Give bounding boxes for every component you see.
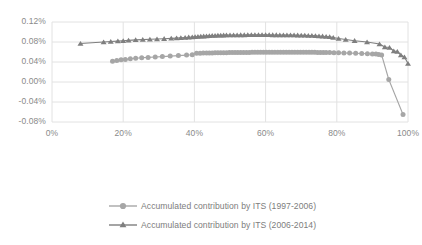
y-axis-tick-label: -0.04% — [18, 96, 46, 106]
circle-marker-icon — [108, 199, 138, 213]
data-point-marker — [110, 59, 115, 64]
data-point-marker — [168, 54, 173, 59]
y-axis-tick-label: -0.08% — [18, 116, 46, 126]
data-point-marker — [184, 53, 189, 58]
data-point-marker — [327, 50, 332, 55]
data-point-marker — [190, 52, 195, 57]
data-point-marker — [386, 77, 391, 82]
data-point-marker — [341, 50, 346, 55]
data-point-marker — [365, 51, 370, 56]
x-axis-tick-label: 40% — [174, 128, 214, 138]
data-point-marker — [336, 50, 341, 55]
y-axis-tick-label: 0.12% — [21, 16, 46, 26]
data-point-marker — [146, 55, 151, 60]
data-point-marker — [114, 58, 119, 63]
triangle-marker-icon — [108, 218, 138, 232]
data-point-marker — [128, 56, 133, 61]
x-axis-tick-label: 60% — [246, 128, 286, 138]
data-point-marker — [133, 56, 138, 61]
data-point-marker — [353, 51, 358, 56]
data-point-marker — [153, 55, 158, 60]
legend-label-series1: Accumulated contribution by ITS (1997-20… — [138, 201, 316, 211]
y-axis-tick-label: 0.08% — [21, 36, 46, 46]
x-axis-tick-label: 0% — [32, 128, 72, 138]
x-axis-tick-label: 80% — [317, 128, 357, 138]
data-point-marker — [347, 51, 352, 56]
legend-item-series2[interactable]: Accumulated contribution by ITS (2006-20… — [108, 215, 408, 234]
x-axis-tick-label: 20% — [103, 128, 143, 138]
data-point-marker — [176, 53, 181, 58]
data-point-marker — [139, 55, 144, 60]
data-point-marker — [359, 51, 364, 56]
x-axis-tick-label: 100% — [388, 128, 422, 138]
data-point-marker — [401, 112, 406, 117]
legend-item-series1[interactable]: Accumulated contribution by ITS (1997-20… — [108, 196, 408, 215]
data-point-marker — [160, 54, 165, 59]
chart-legend: Accumulated contribution by ITS (1997-20… — [108, 196, 408, 234]
legend-label-series2: Accumulated contribution by ITS (2006-20… — [138, 220, 316, 230]
y-axis-tick-label: 0.04% — [21, 56, 46, 66]
data-point-marker — [119, 57, 124, 62]
data-point-marker — [331, 50, 336, 55]
series-layer — [77, 32, 411, 117]
data-point-marker — [123, 57, 128, 62]
data-point-marker — [379, 53, 384, 58]
chart-container: 0.12%0.08%0.04%0.00%-0.04%-0.08% 0%20%40… — [0, 0, 422, 245]
y-axis-tick-label: 0.00% — [21, 76, 46, 86]
